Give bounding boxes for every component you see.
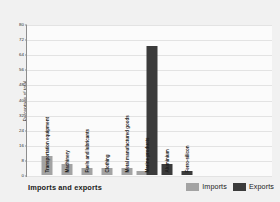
y-axis-tick-label: 32 [19, 113, 24, 117]
bar-group: Fuels and lubricants [77, 25, 97, 175]
y-axis-tick-mark [25, 115, 27, 116]
bar-group: Ferro-silicon [177, 25, 197, 175]
y-axis-tick-label: 24 [19, 128, 24, 132]
bar-group: Transportation equipment [37, 25, 57, 175]
y-axis-tick-label: 72 [19, 38, 24, 42]
y-axis-tick-mark [25, 145, 27, 146]
y-axis-tick-label: 56 [19, 68, 24, 72]
x-axis-category-label: Metal manufactured goods [126, 116, 131, 173]
y-axis-tick-mark [25, 70, 27, 71]
bar-group: Aluminium [157, 25, 177, 175]
y-axis-tick-mark [25, 130, 27, 131]
bar-chart: Percentage of total 08162432404856647280… [0, 0, 280, 202]
chart-footer: Imports and exports Imports Exports [0, 177, 280, 202]
legend: Imports Exports [186, 182, 274, 191]
x-axis-category-label: Marine products [146, 138, 151, 173]
y-axis-tick-mark [25, 85, 27, 86]
y-axis-tick-mark [25, 40, 27, 41]
x-axis-category-label: Aluminium [166, 150, 171, 173]
y-axis-tick-label: 64 [19, 53, 24, 57]
bar-group: Clothing [97, 25, 117, 175]
legend-label-imports: Imports [202, 182, 227, 191]
y-axis-tick-label: 80 [19, 23, 24, 27]
y-axis-tick-mark [25, 55, 27, 56]
x-axis-category-label: Machinery [66, 151, 71, 173]
bar-group: Metal manufactured goods [117, 25, 137, 175]
bar-group: Machinery [57, 25, 77, 175]
legend-label-exports: Exports [249, 182, 274, 191]
bar-group: Marine products [137, 25, 157, 175]
y-axis-tick-label: 16 [19, 144, 24, 148]
y-axis-tick-mark [25, 100, 27, 101]
y-axis-tick-label: 40 [19, 98, 24, 102]
plot-area: 08162432404856647280 Transportation equi… [26, 25, 272, 177]
y-axis-tick-label: 48 [19, 83, 24, 87]
y-axis-tick-mark [25, 160, 27, 161]
bar-series-group: Transportation equipmentMachineryFuels a… [28, 25, 272, 175]
x-axis-category-label: Transportation equipment [46, 118, 51, 173]
legend-swatch-exports-icon [233, 183, 246, 191]
y-axis-tick-label: 8 [22, 159, 24, 163]
legend-item-exports: Exports [233, 182, 274, 191]
legend-swatch-imports-icon [186, 183, 199, 191]
x-axis-category-label: Ferro-silicon [186, 146, 191, 173]
legend-item-imports: Imports [186, 182, 227, 191]
x-axis-category-label: Clothing [106, 155, 111, 173]
x-axis-title: Imports and exports [28, 183, 102, 192]
x-axis-category-label: Fuels and lubricants [86, 129, 91, 173]
y-axis-tick-mark [25, 25, 27, 26]
